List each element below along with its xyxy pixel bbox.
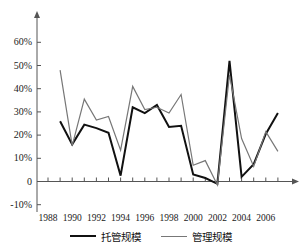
legend-swatch-line-icon [70, 235, 96, 237]
y-axis-tick-label: 50% [14, 61, 32, 71]
y-axis-arrow-icon [34, 11, 40, 18]
y-axis-tick-label: 30% [14, 107, 32, 117]
chart-legend: 托管规模 管理规模 [0, 228, 302, 244]
legend-swatch-line-icon [161, 236, 187, 237]
chart-plot-area [0, 0, 302, 248]
y-axis-tick-label: 60% [14, 37, 32, 47]
series-line-1 [60, 61, 278, 184]
y-axis-tick-label: -10% [10, 200, 32, 210]
y-axis-tick-label: 40% [14, 84, 32, 94]
legend-entry-tuoguan: 托管规模 [70, 229, 141, 244]
x-axis-arrow-icon [292, 179, 299, 185]
x-axis-tick-label: 2006 [252, 213, 280, 223]
legend-label-guanli: 管理规模 [192, 229, 232, 244]
y-axis-tick-label: 10% [14, 153, 32, 163]
series-group [60, 61, 278, 185]
legend-entry-guanli: 管理规模 [161, 229, 232, 244]
y-axis-tick-label: 0 [27, 177, 32, 187]
chart-container: 60%50%40%30%20%10%0-10% 1988199019921994… [0, 0, 302, 248]
legend-label-tuoguan: 托管规模 [101, 229, 141, 244]
y-axis-tick-label: 20% [14, 130, 32, 140]
